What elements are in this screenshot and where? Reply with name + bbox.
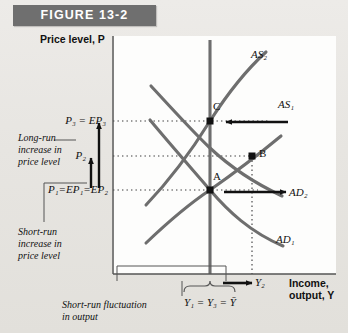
equilibrium-markers <box>0 0 348 333</box>
point-label-a: A <box>213 170 221 182</box>
point-marker-b <box>249 153 256 160</box>
output-label-full: Y₁ = Y₃ = Ȳ <box>160 296 260 308</box>
point-label-b: B <box>259 147 266 159</box>
output-label-y2: Y₂ <box>255 276 279 288</box>
point-marker-a <box>207 187 214 194</box>
point-marker-c <box>207 118 214 125</box>
point-label-c: C <box>213 100 220 112</box>
figure-root: FIGURE 13-2 <box>0 0 348 333</box>
